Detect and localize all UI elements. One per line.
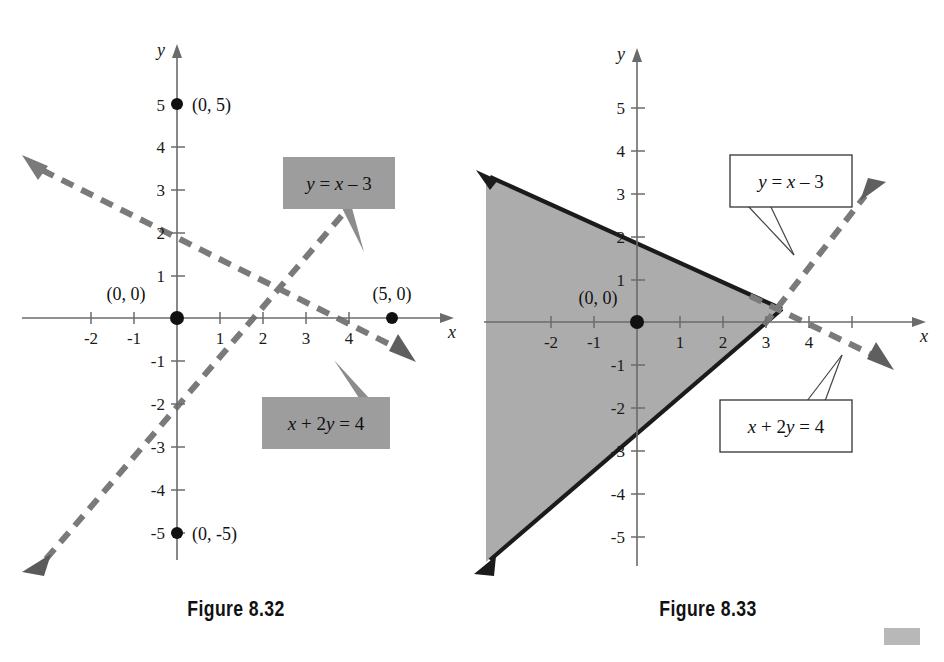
x-tick-label: 3 [762, 333, 771, 352]
point-marker-0-minus5 [171, 527, 183, 539]
y-tick-label: 2 [157, 224, 166, 243]
point-label-5-0: (5, 0) [373, 284, 412, 305]
y-tick-label: 5 [157, 96, 166, 115]
figure-8-32-plot: -2 -1 1 2 3 4 5 4 3 [0, 0, 472, 600]
y-tick-label: -1 [611, 356, 625, 375]
y-tick-label: -4 [611, 485, 626, 504]
x-tick-label: -2 [84, 329, 98, 348]
x-axis-tick-labels-8-32: -2 -1 1 2 3 4 [84, 329, 354, 348]
x-tick-label: -1 [587, 333, 601, 352]
color-swatch-artifact [884, 628, 920, 645]
callout-equation-text: y = x – 3 [304, 173, 372, 194]
x-tick-label: 2 [719, 333, 728, 352]
x-tick-label: 1 [676, 333, 685, 352]
figure-caption: Figure 8.32 [47, 596, 425, 622]
x-tick-label: 2 [259, 329, 268, 348]
y-tick-label: 1 [617, 271, 626, 290]
y-tick-label: -4 [151, 481, 166, 500]
callout-x-plus-2y-eq-4-8-32: x + 2y = 4 [262, 360, 390, 449]
point-marker-5-0 [386, 312, 398, 324]
x-tick-label: 4 [345, 329, 354, 348]
callout-y-eq-x-minus-3-8-33: y = x – 3 [730, 155, 852, 255]
point-label-0-0: (0, 0) [107, 284, 146, 305]
y-tick-label: -2 [151, 395, 165, 414]
point-label-0-5: (0, 5) [192, 95, 231, 116]
y-tick-label: 1 [157, 267, 166, 286]
point-label-0-0: (0, 0) [579, 288, 618, 309]
callout-equation-text: y = x – 3 [756, 171, 824, 192]
y-tick-label: -2 [611, 399, 625, 418]
dashed-line-x-plus-2y-eq-4 [750, 296, 894, 370]
figure-page: -2 -1 1 2 3 4 5 4 3 [0, 0, 944, 662]
y-tick-label: 3 [617, 185, 626, 204]
figure-8-33-plot: -2 -1 1 2 3 4 5 4 [472, 0, 944, 600]
callout-equation-text: x + 2y = 4 [287, 413, 365, 434]
y-tick-label: -1 [151, 352, 165, 371]
y-tick-label: 3 [157, 181, 166, 200]
y-tick-label: 4 [157, 138, 166, 157]
y-axis-label: y [615, 44, 625, 64]
figure-caption: Figure 8.33 [519, 596, 897, 622]
point-marker-0-0 [170, 311, 184, 325]
x-axis-label: x [447, 322, 456, 342]
point-marker-0-5 [171, 98, 183, 110]
dashed-line-y-eq-x-minus-3 [22, 174, 385, 576]
x-tick-label: 1 [216, 329, 225, 348]
x-axis-label: x [919, 326, 928, 346]
callout-x-plus-2y-eq-4-8-33: x + 2y = 4 [720, 355, 852, 452]
y-tick-label: -5 [611, 528, 625, 547]
y-axis-tick-labels-8-32: 5 4 3 2 1 -1 -2 -3 -4 -5 [151, 96, 166, 543]
y-tick-label: -3 [611, 442, 625, 461]
figure-8-32-panel: -2 -1 1 2 3 4 5 4 3 [0, 0, 472, 662]
x-tick-label: -2 [544, 333, 558, 352]
shaded-solution-region [486, 175, 780, 562]
y-axis-ticks-8-32 [171, 147, 185, 533]
callout-y-eq-x-minus-3-8-32: y = x – 3 [283, 157, 395, 252]
callout-equation-text: x + 2y = 4 [747, 416, 825, 437]
y-tick-label: 4 [617, 142, 626, 161]
y-tick-label: -3 [151, 438, 165, 457]
figure-8-33-panel: -2 -1 1 2 3 4 5 4 [472, 0, 944, 662]
y-tick-label: 2 [617, 228, 626, 247]
y-axis-label: y [155, 40, 165, 60]
x-tick-label: 4 [805, 333, 814, 352]
point-marker-0-0 [630, 315, 644, 329]
point-label-0-minus5: (0, -5) [192, 524, 237, 545]
x-tick-label: -1 [127, 329, 141, 348]
y-tick-label: 5 [617, 99, 626, 118]
y-tick-label: -5 [151, 524, 165, 543]
x-tick-label: 3 [302, 329, 311, 348]
